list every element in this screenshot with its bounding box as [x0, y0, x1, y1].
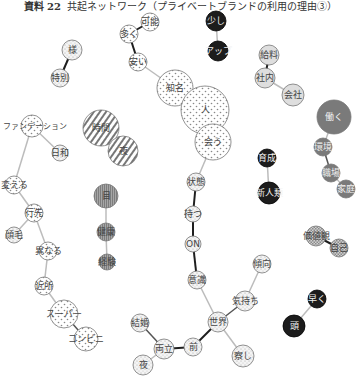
node-tsuzuku: 持つ	[184, 206, 202, 222]
node-jiko: 自己	[330, 239, 348, 257]
node-ooku: 多く	[120, 25, 138, 43]
node-label: 会う	[204, 136, 222, 147]
node-label: 気持ち	[232, 295, 259, 306]
node-label: 経験	[98, 256, 116, 267]
node-mae: 前	[184, 338, 202, 356]
node-label: 世界	[209, 316, 227, 327]
node-label: 夜	[119, 145, 128, 156]
node-label: 働く	[325, 111, 343, 122]
node-joukyou: 状態	[187, 173, 205, 191]
node-label: 察し	[234, 350, 252, 361]
node-label: 給料	[260, 49, 278, 60]
node-kaeru: 変える	[1, 176, 28, 194]
node-yukisaki: 行先	[25, 204, 43, 222]
node-kinjo: 近所	[35, 277, 53, 295]
node-label: 少し	[207, 16, 225, 26]
node-sasshi: 察し	[232, 345, 254, 367]
node-label: 目	[102, 191, 111, 201]
node-label: 可能	[141, 16, 159, 27]
node-keikou: 傾向	[253, 255, 271, 273]
node-seiken: 世界	[208, 312, 228, 332]
node-me: 目	[94, 184, 118, 208]
node-kotonaru: 異なる	[35, 242, 62, 260]
node-on: ON	[185, 236, 201, 252]
node-kachikan: 価値観	[303, 226, 330, 246]
node-label: 持つ	[184, 208, 202, 219]
node-yasui: 安い	[129, 53, 147, 71]
node-au: 会う	[195, 124, 231, 160]
node-label: 頭	[290, 321, 299, 331]
node-label: 知名	[166, 82, 184, 93]
node-sukoshi: 少し	[206, 11, 226, 31]
node-label: 社内	[256, 72, 274, 83]
node-label: 育成	[258, 152, 276, 163]
node-label: コンビニ	[68, 334, 104, 344]
node-label: 両立	[155, 343, 173, 354]
node-shanai: 社内	[255, 68, 275, 88]
node-nichiwa: 日和	[51, 145, 69, 161]
node-label: 多く	[120, 28, 138, 39]
node-atama: 頭	[283, 315, 305, 337]
node-label: 新人類	[256, 187, 283, 198]
node-label: ファンデーション	[3, 121, 67, 131]
node-label: ON	[186, 239, 200, 249]
node-shinjinrui: 新人類	[256, 182, 283, 204]
node-keiken: 経験	[98, 254, 116, 270]
node-label: 近所	[35, 280, 53, 291]
node-kankyo: 環境	[314, 138, 332, 156]
node-shokuba: 職場	[322, 164, 340, 182]
node-ikusei: 育成	[258, 149, 276, 167]
node-label: 日和	[51, 148, 69, 158]
node-label: 傾向	[253, 258, 271, 269]
node-label: 変える	[1, 179, 28, 190]
node-hataraku: 働く	[317, 100, 351, 134]
co-occurrence-network: 様特別可能多く安い少しアップ知名人会う給料社内会社働く環境職場家庭育成新人類時間…	[0, 0, 361, 387]
node-label: アップ	[205, 46, 232, 56]
node-hyo: 様	[62, 40, 82, 60]
node-label: 前	[189, 341, 198, 352]
node-label: 顔毛	[5, 229, 23, 240]
node-kasei: 家庭	[337, 180, 355, 198]
node-kekkon: 結婚	[131, 314, 149, 332]
node-label: 行先	[25, 207, 43, 218]
node-label: 早く	[308, 294, 326, 304]
node-label: スーパー	[46, 309, 82, 319]
node-label: 結婚	[131, 317, 149, 328]
node-label: 特別	[51, 72, 69, 83]
node-shigoto: 早く	[308, 290, 326, 308]
node-label: 価値観	[303, 230, 330, 241]
node-tokubetsu: 特別	[51, 69, 69, 87]
node-combi: コンビニ	[68, 327, 104, 351]
node-kyuryo: 給料	[259, 45, 279, 65]
node-kaisha: 会社	[282, 84, 304, 106]
node-label: 時間	[92, 123, 110, 133]
node-label: 夜	[139, 359, 148, 370]
node-label: 職場	[322, 167, 340, 178]
node-label: 環境	[314, 141, 332, 152]
node-label: 状態	[187, 176, 205, 187]
node-aplus: アップ	[205, 41, 232, 61]
node-layer: 様特別可能多く安い少しアップ知名人会う給料社内会社働く環境職場家庭育成新人類時間…	[1, 11, 356, 375]
node-label: 家庭	[337, 183, 355, 194]
node-label: 意識	[188, 274, 206, 285]
node-label: 健康	[97, 226, 115, 237]
node-fashion: ファンデーション	[3, 115, 67, 137]
node-kenkou: 健康	[97, 223, 115, 241]
node-moto: 顔毛	[5, 227, 23, 243]
node-label: 人	[201, 105, 210, 115]
node-label: 様	[68, 44, 77, 55]
node-kanou: 可能	[141, 13, 159, 31]
node-label: 自己	[330, 242, 348, 253]
node-ryoritsu: 両立	[154, 339, 174, 359]
node-label: 安い	[129, 56, 147, 67]
node-label: 会社	[284, 89, 302, 100]
node-super: スーパー	[46, 300, 82, 328]
node-kyo: 夜	[108, 136, 138, 166]
node-yoru: 夜	[133, 355, 153, 375]
node-label: 異なる	[35, 246, 62, 256]
node-ishiki: 意識	[188, 271, 206, 289]
